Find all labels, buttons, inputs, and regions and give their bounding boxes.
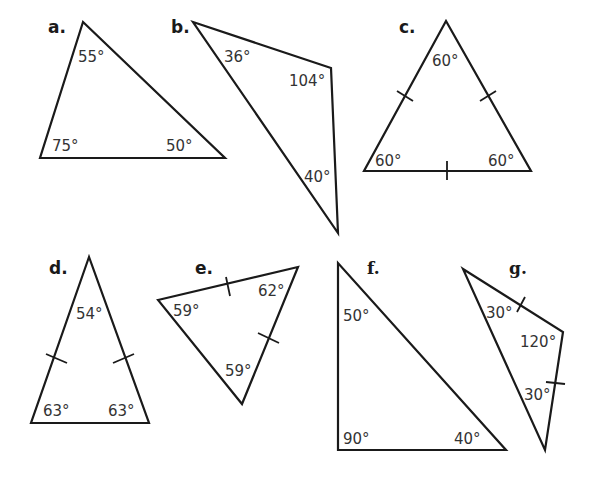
tick-mark-icon xyxy=(397,91,413,101)
triangle-b: b. 36° 104° 40° xyxy=(171,17,338,233)
triangle-e-angle-top-right: 62° xyxy=(258,282,285,300)
triangle-f: f. 50° 90° 40° xyxy=(338,258,506,450)
triangle-c: c. 60° 60° 60° xyxy=(364,17,531,180)
triangle-f-angle-bottom-left: 90° xyxy=(343,430,370,448)
triangle-d: d. 54° 63° 63° xyxy=(31,257,149,423)
triangle-c-angle-bottom-right: 60° xyxy=(488,152,515,170)
triangle-b-label: b. xyxy=(171,17,190,37)
triangle-g-label: g. xyxy=(509,258,527,278)
triangle-f-shape xyxy=(338,263,506,450)
triangle-e: e. 59° 62° 59° xyxy=(158,258,298,404)
triangle-f-angle-top: 50° xyxy=(343,307,370,325)
triangle-c-angle-bottom-left: 60° xyxy=(375,152,402,170)
tick-mark-icon xyxy=(546,382,565,384)
triangle-b-shape xyxy=(193,22,338,233)
triangle-b-angle-top: 36° xyxy=(224,48,251,66)
triangle-a-angle-bottom-right: 50° xyxy=(166,137,193,155)
tick-mark-icon xyxy=(226,277,230,296)
triangle-g-angle-right: 120° xyxy=(520,333,556,351)
triangle-g: g. 30° 120° 30° xyxy=(463,258,565,450)
triangle-b-angle-right: 104° xyxy=(289,72,325,90)
triangle-a-angle-bottom-left: 75° xyxy=(52,137,79,155)
triangle-d-shape xyxy=(31,257,149,423)
tick-mark-icon xyxy=(46,354,67,363)
triangle-a: a. 55° 75° 50° xyxy=(40,17,225,158)
triangle-g-shape xyxy=(463,269,563,450)
triangle-f-label: f. xyxy=(367,258,380,278)
triangle-diagram: a. 55° 75° 50° b. 36° 104° 40° c. 60° 60… xyxy=(0,0,593,477)
triangle-e-angle-bottom: 59° xyxy=(225,362,252,380)
triangle-a-angle-top: 55° xyxy=(78,48,105,66)
triangle-c-angle-top: 60° xyxy=(432,52,459,70)
triangle-c-label: c. xyxy=(399,17,416,37)
triangle-d-angle-top: 54° xyxy=(76,305,103,323)
triangle-a-label: a. xyxy=(48,17,66,37)
triangle-d-label: d. xyxy=(49,258,68,278)
tick-mark-icon xyxy=(480,91,496,101)
triangle-d-angle-bottom-left: 63° xyxy=(43,402,70,420)
triangle-g-angle-lower: 30° xyxy=(524,386,551,404)
triangle-g-angle-top: 30° xyxy=(486,304,513,322)
triangle-b-angle-bottom: 40° xyxy=(304,168,331,186)
triangle-c-shape xyxy=(364,21,531,171)
triangle-f-angle-bottom-right: 40° xyxy=(454,430,481,448)
triangle-e-angle-left: 59° xyxy=(173,302,200,320)
triangle-e-label: e. xyxy=(195,258,213,278)
triangle-d-angle-bottom-right: 63° xyxy=(108,402,135,420)
